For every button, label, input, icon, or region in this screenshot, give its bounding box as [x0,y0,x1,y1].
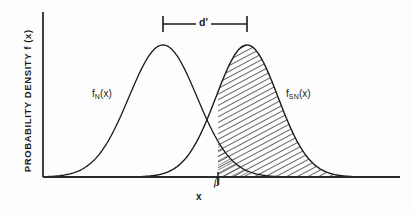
x-axis-title: x [196,192,202,202]
curve-signal-noise-label: fSN(x) [286,89,311,100]
curve-noise-label: fN(x) [92,89,112,100]
signal-detection-figure: PROBABILITY DENSITY f (x) x d' fN(x) fSN… [0,0,413,215]
curve-signal-noise-label-subscript: SN [289,93,299,100]
dprime-label: d' [196,17,211,28]
plot-canvas [0,0,413,215]
curve-signal-noise-label-arg: (x) [299,88,311,99]
beta-criterion-label: β [214,178,220,188]
y-axis-title: PROBABILITY DENSITY f (x) [23,21,33,181]
curve-noise-label-arg: (x) [100,88,112,99]
